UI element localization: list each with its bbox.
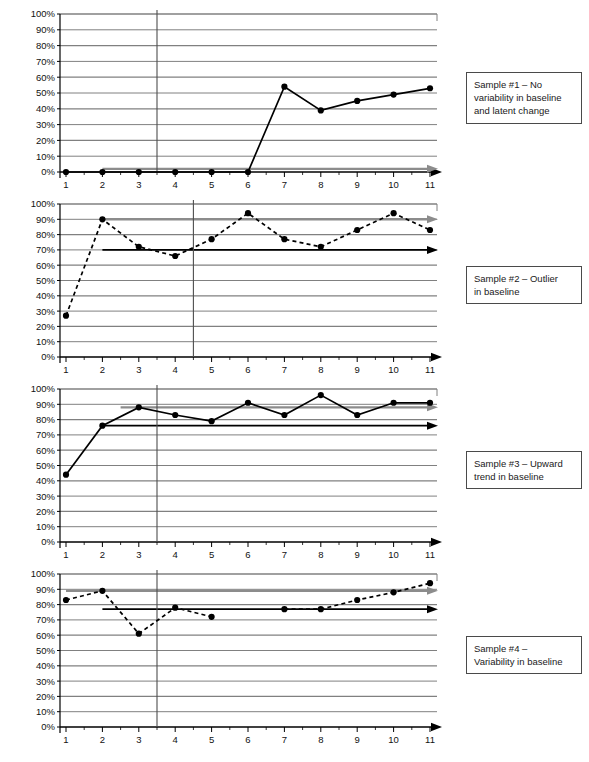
y-axis-tick-label: 60% xyxy=(36,445,56,456)
callout-sample-4: Sample #4 – Variability in baseline xyxy=(466,636,582,674)
callout-line: variability in baseline xyxy=(474,91,575,104)
figure-page: 0%10%20%30%40%50%60%70%80%90%100%1234567… xyxy=(0,0,589,762)
x-axis-tick-label: 3 xyxy=(136,179,141,190)
x-axis-tick-label: 11 xyxy=(425,364,435,375)
axes xyxy=(57,574,442,733)
data-point-marker xyxy=(427,580,433,586)
data-point-marker xyxy=(172,169,178,175)
x-axis-tick-label: 2 xyxy=(100,179,105,190)
x-axis-tick-label: 6 xyxy=(245,179,250,190)
y-axis-tick-label: 80% xyxy=(36,229,56,240)
x-axis-tick-label: 4 xyxy=(173,364,178,375)
x-axis-arrowhead xyxy=(431,723,442,731)
data-point-marker xyxy=(99,169,105,175)
x-axis-tick-label: 1 xyxy=(63,364,68,375)
x-axis-tick-label: 6 xyxy=(245,549,250,560)
data-line xyxy=(66,213,430,316)
y-axis-tick-label: 10% xyxy=(36,151,56,162)
tick-labels: 0%10%20%30%40%50%60%70%80%90%100%1234567… xyxy=(31,568,435,745)
callout-line: Variability in baseline xyxy=(474,655,575,668)
x-axis-tick-label: 11 xyxy=(425,734,435,745)
y-axis-tick-label: 0% xyxy=(41,721,55,732)
x-axis-tick-label: 3 xyxy=(136,734,141,745)
y-axis-tick-label: 60% xyxy=(36,72,56,83)
data-point-marker xyxy=(391,210,397,216)
chart-panel-sample-4: 0%10%20%30%40%50%60%70%80%90%100%1234567… xyxy=(0,560,589,760)
data-line xyxy=(66,87,430,172)
x-axis-tick-label: 11 xyxy=(425,549,435,560)
x-axis-tick-label: 9 xyxy=(355,179,360,190)
data-point-marker xyxy=(391,400,397,406)
data-point-marker xyxy=(354,227,360,233)
y-axis-tick-label: 40% xyxy=(36,103,56,114)
callout-line: and latent change xyxy=(474,104,575,117)
y-axis-tick-label: 50% xyxy=(36,460,56,471)
x-axis-tick-label: 5 xyxy=(209,549,214,560)
trend-line-arrowhead xyxy=(427,246,438,254)
y-axis-tick-label: 70% xyxy=(36,244,56,255)
y-axis-tick-label: 80% xyxy=(36,40,56,51)
y-axis-tick-label: 90% xyxy=(36,24,56,35)
chart-panel-sample-2: 0%10%20%30%40%50%60%70%80%90%100%1234567… xyxy=(0,190,589,375)
data-point-marker xyxy=(281,236,287,242)
data-point-marker xyxy=(281,84,287,90)
data-point-marker xyxy=(245,210,251,216)
data-point-marker xyxy=(63,313,69,319)
data-line xyxy=(284,583,430,609)
data-series xyxy=(63,84,433,176)
trend-line-arrowhead xyxy=(427,587,438,595)
y-axis-tick-label: 30% xyxy=(36,119,56,130)
data-point-marker xyxy=(427,227,433,233)
data-point-marker xyxy=(99,588,105,594)
y-axis-tick-label: 10% xyxy=(36,521,56,532)
data-point-marker xyxy=(391,589,397,595)
y-axis-tick-label: 40% xyxy=(36,660,56,671)
x-axis-tick-label: 2 xyxy=(100,734,105,745)
gridlines xyxy=(60,574,437,712)
gridlines xyxy=(60,389,437,527)
y-axis-tick-label: 80% xyxy=(36,599,56,610)
data-point-marker xyxy=(318,606,324,612)
x-axis-tick-label: 10 xyxy=(388,179,399,190)
y-axis-tick-label: 100% xyxy=(31,568,56,579)
gridlines xyxy=(60,14,437,156)
data-point-marker xyxy=(209,236,215,242)
y-axis-tick-label: 30% xyxy=(36,676,56,687)
y-axis-tick-label: 30% xyxy=(36,306,56,317)
y-axis-tick-label: 100% xyxy=(31,383,56,394)
x-axis-tick-label: 4 xyxy=(173,179,178,190)
data-point-marker xyxy=(427,400,433,406)
x-axis-tick-label: 8 xyxy=(318,364,323,375)
x-axis-tick-label: 8 xyxy=(318,549,323,560)
x-axis-tick-label: 10 xyxy=(388,734,399,745)
chart-panel-sample-1: 0%10%20%30%40%50%60%70%80%90%100%1234567… xyxy=(0,0,589,190)
data-point-marker xyxy=(318,244,324,250)
data-point-marker xyxy=(99,423,105,429)
y-axis-tick-label: 0% xyxy=(41,536,55,547)
y-axis-tick-label: 40% xyxy=(36,475,56,486)
x-axis-tick-label: 7 xyxy=(282,734,287,745)
axes xyxy=(57,389,442,548)
y-axis-tick-label: 70% xyxy=(36,56,56,67)
data-point-marker xyxy=(281,412,287,418)
y-axis-tick-label: 100% xyxy=(31,198,56,209)
y-axis-tick-label: 80% xyxy=(36,414,56,425)
x-axis-tick-label: 7 xyxy=(282,549,287,560)
data-point-marker xyxy=(63,472,69,478)
data-line xyxy=(66,591,212,634)
x-axis-tick-label: 3 xyxy=(136,549,141,560)
data-point-marker xyxy=(354,597,360,603)
y-axis-tick-label: 10% xyxy=(36,706,56,717)
data-point-marker xyxy=(209,169,215,175)
y-axis-tick-label: 40% xyxy=(36,290,56,301)
data-point-marker xyxy=(99,216,105,222)
gridlines xyxy=(60,204,437,342)
x-axis-tick-label: 6 xyxy=(245,364,250,375)
data-point-marker xyxy=(354,412,360,418)
x-axis-tick-label: 1 xyxy=(63,549,68,560)
x-axis-tick-label: 8 xyxy=(318,734,323,745)
callout-line: in baseline xyxy=(474,285,575,298)
x-axis-tick-label: 4 xyxy=(173,549,178,560)
data-point-marker xyxy=(427,85,433,91)
x-axis-tick-label: 9 xyxy=(355,364,360,375)
